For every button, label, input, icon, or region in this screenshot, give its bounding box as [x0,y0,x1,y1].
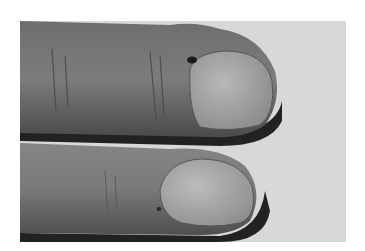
top-fingernail [190,51,273,130]
small-lesion [157,207,162,211]
dark-lesion [187,57,197,64]
finger-photo [20,21,346,242]
